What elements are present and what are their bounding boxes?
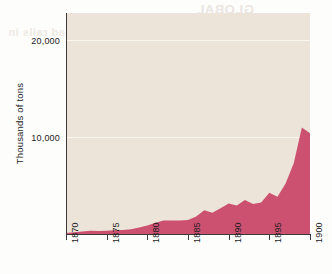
plot-area <box>66 13 310 234</box>
y-tick-label-10000: 10,000 <box>31 133 60 143</box>
y-axis-line <box>66 13 67 235</box>
chart-figure: GLOBAL SUPREMACY Railroad rails in 20,00… <box>0 0 332 274</box>
x-tick-mark-1870 <box>66 235 67 240</box>
area-series-railroad-rails <box>66 13 310 234</box>
x-tick-label-1870: 1870 <box>70 222 80 243</box>
x-tick-mark-1895 <box>269 235 270 240</box>
x-tick-mark-1880 <box>147 235 148 240</box>
x-tick-mark-1885 <box>188 235 189 240</box>
y-tick-label-20000: 20,000 <box>31 36 60 46</box>
x-tick-label-1875: 1875 <box>111 222 121 243</box>
x-tick-label-1890: 1890 <box>233 222 243 243</box>
x-tick-mark-1875 <box>107 235 108 240</box>
x-tick-mark-1890 <box>229 235 230 240</box>
x-tick-mark-1900 <box>310 235 311 240</box>
x-tick-label-1880: 1880 <box>151 222 161 243</box>
x-tick-label-1900: 1900 <box>314 222 324 243</box>
y-axis-title: Thousands of tons <box>14 69 25 179</box>
x-tick-label-1885: 1885 <box>192 222 202 243</box>
x-tick-label-1895: 1895 <box>273 222 283 243</box>
